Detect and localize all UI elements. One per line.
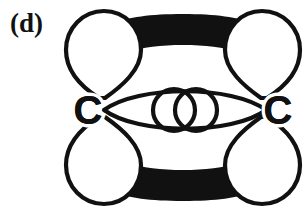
orbital-diagram-figure: C C C C (d) xyxy=(0,0,308,215)
panel-label: (d) xyxy=(10,10,43,37)
lobe-top-left xyxy=(66,11,141,98)
central-lens xyxy=(104,91,266,129)
carbon-left-label-fg: C xyxy=(74,88,103,132)
lobe-top-right xyxy=(225,11,300,98)
diagram-canvas: C C C C xyxy=(0,0,308,215)
carbon-right-label-fg: C xyxy=(264,88,293,132)
